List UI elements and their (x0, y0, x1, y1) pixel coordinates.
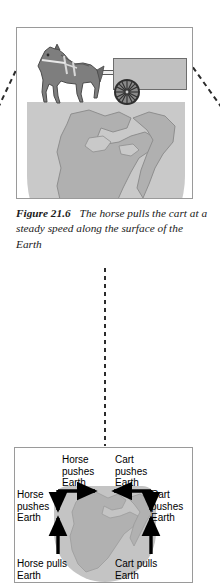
figure-number: Figure 21.6 (16, 207, 71, 219)
force-diagram-panel: Horse pushes Earth Cart pushes Earth Hor… (14, 447, 193, 583)
label-cart-pushes-earth-top: Cart pushes Earth (115, 454, 147, 489)
figure-caption: Figure 21.6The horse pulls the cart at a… (16, 206, 208, 252)
dashed-leader-right (192, 66, 220, 108)
horse (31, 42, 109, 112)
label-horse-pushes-earth-top: Horse pushes Earth (62, 454, 94, 489)
earth-globe-top (27, 102, 185, 199)
cart-wheel (113, 78, 141, 106)
label-cart-pushes-earth-right: Cart pushes Earth (151, 489, 183, 524)
label-horse-pulls-earth: Horse pulls Earth (17, 558, 67, 581)
label-horse-pushes-earth-left: Horse pushes Earth (17, 489, 49, 524)
caption-line-1: The horse pulls the cart (80, 207, 187, 219)
earth-continents (27, 102, 185, 199)
top-illustration-panel (16, 27, 193, 199)
label-cart-pulls-earth: Cart pulls Earth (115, 558, 157, 581)
